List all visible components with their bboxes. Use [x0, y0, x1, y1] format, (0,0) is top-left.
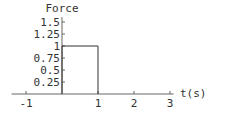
x-tick-label: 2	[131, 97, 138, 110]
force-chart: Force -1123 0.250.50.7511.251.5 t(s)	[0, 0, 225, 117]
y-tick-label: 1.5	[40, 16, 60, 29]
x-tick-label: 1	[95, 97, 102, 110]
y-tick-label: 1	[53, 40, 60, 53]
x-tick-label: 3	[167, 97, 174, 110]
force-series-line	[62, 46, 98, 94]
x-tick-label: -1	[19, 97, 32, 110]
x-axis-label: t(s)	[180, 87, 207, 100]
y-tick-label: 0.75	[34, 52, 61, 65]
y-tick-label: 0.25	[34, 76, 61, 89]
y-tick-label: 0.5	[40, 64, 60, 77]
y-tick-label: 1.25	[34, 28, 61, 41]
chart-title: Force	[45, 2, 78, 15]
